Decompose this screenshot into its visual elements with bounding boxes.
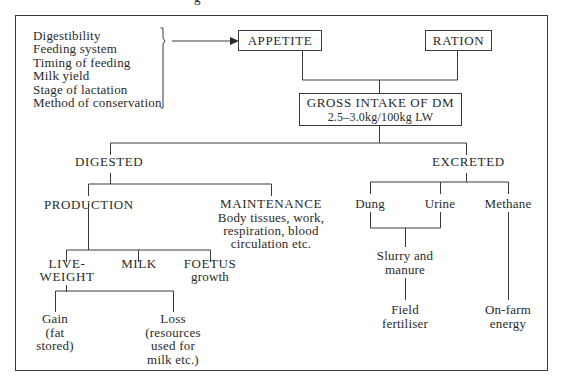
ration-label: RATION	[426, 34, 491, 48]
factor-item: Stage of lactation	[33, 83, 162, 96]
field-fertiliser-label: Field fertiliser	[370, 303, 440, 330]
top-partial-text: g	[194, 0, 201, 5]
maintenance-desc: Body tissues, work, respiration, blood c…	[206, 211, 336, 250]
gross-intake-sub: 2.5–3.0kg/100kg LW	[300, 110, 461, 124]
ration-box: RATION	[425, 30, 492, 51]
onfarm-energy-label: On-farm energy	[478, 303, 538, 330]
factor-item: Timing of feeding	[33, 56, 162, 69]
methane-label: Methane	[478, 197, 538, 211]
merge-line	[303, 50, 458, 80]
excreted-label: EXCRETED	[432, 155, 505, 169]
loss-label: Loss (resources used for milk etc.)	[138, 312, 208, 366]
factor-item: Digestibility	[33, 29, 162, 42]
factors-list: Digestibility Feeding system Timing of f…	[33, 29, 162, 109]
feed-intake-diagram: g Digestibility Feeding system Timing of…	[0, 0, 561, 383]
foetus-sub: growth	[178, 270, 242, 284]
gain-label: Gain (fat stored)	[30, 312, 80, 353]
slurry-label: Slurry and manure	[370, 249, 440, 276]
factor-item: Milk yield	[33, 69, 162, 82]
factor-item: Feeding system	[33, 42, 162, 55]
appetite-box: APPETITE	[238, 30, 322, 51]
gross-intake-label: GROSS INTAKE OF DM	[300, 96, 461, 110]
dung-label: Dung	[350, 197, 390, 211]
maintenance-label: MAINTENANCE	[216, 197, 326, 211]
urine-label: Urine	[418, 197, 462, 211]
liveweight-label: LIVE- WEIGHT	[36, 257, 98, 283]
factor-item: Method of conservation	[33, 96, 162, 109]
gross-intake-box: GROSS INTAKE OF DM 2.5–3.0kg/100kg LW	[299, 93, 462, 126]
milk-label: MILK	[113, 257, 165, 271]
production-label: PRODUCTION	[44, 198, 134, 212]
appetite-label: APPETITE	[239, 34, 321, 48]
digested-label: DIGESTED	[75, 155, 143, 169]
